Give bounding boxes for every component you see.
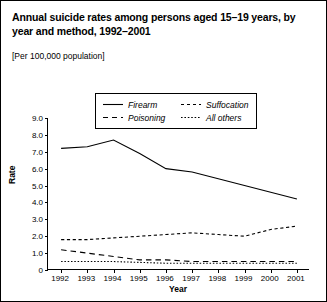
- x-axis-title: Year: [47, 284, 309, 294]
- y-axis-tick-mark: [45, 219, 49, 220]
- legend-row: Poisoning All others: [103, 111, 249, 124]
- series-line-firearm: [61, 140, 297, 199]
- legend-line-longdash-icon: [103, 114, 123, 121]
- y-axis-tick-labels: 01.02.03.04.05.06.07.08.09.0: [15, 118, 43, 270]
- y-axis-tick-label: 8.0: [32, 130, 43, 139]
- y-axis-tick-mark: [45, 253, 49, 254]
- y-axis-tick-label: 4.0: [32, 198, 43, 207]
- y-axis-tick-label: 3.0: [32, 215, 43, 224]
- y-axis-tick-mark: [45, 202, 49, 203]
- y-axis-tick-label: 6.0: [32, 164, 43, 173]
- series-line-poisoning: [61, 250, 297, 262]
- y-axis-tick-mark: [45, 135, 49, 136]
- y-axis-tick-label: 2.0: [32, 232, 43, 241]
- legend-item-suffocation: Suffocation: [181, 100, 249, 110]
- x-axis-tick-label: 2001: [279, 274, 313, 283]
- y-axis-tick-label: 9.0: [32, 114, 43, 123]
- y-axis-tick-mark: [45, 152, 49, 153]
- y-axis-tick-mark: [45, 186, 49, 187]
- plot-area: [47, 118, 309, 270]
- legend-label-firearm: Firearm: [128, 100, 157, 110]
- y-axis-tick-mark: [45, 169, 49, 170]
- legend-item-firearm: Firearm: [103, 100, 181, 110]
- legend-label-all-others: All others: [206, 113, 241, 123]
- y-axis-tick-mark: [45, 236, 49, 237]
- page-title: Annual suicide rates among persons aged …: [12, 11, 312, 38]
- y-axis-tick-mark: [45, 118, 49, 119]
- legend-label-poisoning: Poisoning: [128, 113, 165, 123]
- x-axis-tick-labels: 1992199319941995199619971998199920002001: [47, 270, 309, 284]
- chart-series-lines: [48, 118, 310, 270]
- legend-item-poisoning: Poisoning: [103, 113, 181, 123]
- legend-line-solid-icon: [103, 101, 123, 108]
- legend-row: Firearm Suffocation: [103, 98, 249, 111]
- chart-legend: Firearm Suffocation Poisoning All oth: [95, 93, 257, 129]
- legend-item-all-others: All others: [181, 113, 241, 123]
- chart-subtitle: [Per 100,000 population]: [12, 51, 105, 62]
- legend-line-dotted-icon: [181, 114, 201, 121]
- figure-panel: Annual suicide rates among persons aged …: [0, 0, 327, 302]
- y-axis-tick-label: 5.0: [32, 181, 43, 190]
- y-axis-tick-label: 1.0: [32, 249, 43, 258]
- series-line-suffocation: [61, 226, 297, 240]
- legend-label-suffocation: Suffocation: [206, 100, 249, 110]
- y-axis-tick-label: 7.0: [32, 147, 43, 156]
- legend-line-dashed-icon: [181, 101, 201, 108]
